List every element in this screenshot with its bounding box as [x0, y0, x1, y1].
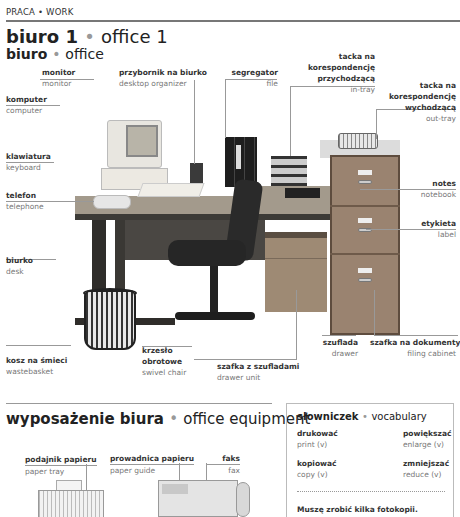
- label-en: wastebasket: [6, 366, 67, 377]
- label-pl: szuflada: [318, 337, 358, 348]
- label-pl: tacka na: [370, 80, 456, 91]
- label-file: segregator file: [230, 67, 278, 89]
- label-pl: przybornik na biurko: [119, 67, 207, 78]
- leader-line: [296, 290, 297, 359]
- label-en: fax: [206, 465, 240, 476]
- label-en: desk: [6, 266, 33, 277]
- cabinet-handle-image: [358, 180, 372, 184]
- label-pl: tacka na: [290, 51, 375, 62]
- label-desk: biurko desk: [6, 255, 33, 277]
- leader-line: [225, 80, 226, 138]
- notebook-image: [285, 188, 320, 198]
- drawer-divider: [265, 258, 327, 259]
- label-en: swivel chair: [142, 367, 186, 378]
- cabinet-label-image: [358, 170, 372, 175]
- cabinet-divider: [330, 253, 400, 255]
- equipment-title: wyposażenie biura • office equipment: [6, 410, 310, 428]
- monitor-screen-image: [126, 125, 158, 157]
- label-keyboard: klawiatura keyboard: [6, 151, 51, 173]
- label-en: notebook: [400, 189, 456, 200]
- label-drawer: szuflada drawer: [318, 337, 358, 359]
- equipment-divider: [6, 403, 272, 404]
- vocab-en: copy (v): [297, 469, 336, 480]
- label-pl: kosz na śmieci: [6, 355, 67, 366]
- label-organizer: przybornik na biurko desktop organizer: [119, 67, 207, 89]
- label-pl: przychodzącą: [290, 73, 375, 84]
- label-en: out-tray: [370, 113, 456, 124]
- label-en: computer: [6, 105, 47, 116]
- label-en: keyboard: [6, 162, 51, 173]
- label-en: monitor: [42, 78, 75, 89]
- label-en: drawer: [318, 348, 358, 359]
- vocab-pl: zmniejszać: [403, 458, 449, 469]
- intray-image: [271, 156, 307, 186]
- telephone-image: [93, 195, 131, 209]
- label-paper-guide: prowadnica papieru paper guide: [110, 453, 194, 476]
- vocabulary-title-pl: słowniczek: [297, 411, 359, 422]
- leader-line: [290, 86, 291, 156]
- cabinet-label-image: [358, 218, 372, 223]
- vocabulary-title: słowniczek • vocabulary: [297, 411, 427, 422]
- vocabulary-title-separator: •: [362, 411, 368, 422]
- label-pl: biurko: [6, 255, 33, 266]
- vocab-item: zmniejszać reduce (v): [403, 458, 449, 480]
- vocab-pl: drukować: [297, 428, 338, 439]
- leader-line: [194, 80, 195, 164]
- label-pl: szafka z szufladami: [217, 361, 299, 372]
- label-en: file: [230, 78, 278, 89]
- label-en: in-tray: [290, 84, 375, 95]
- label-pl: korespondencję: [290, 62, 375, 73]
- cabinet-label-image: [358, 268, 372, 273]
- vocab-item: drukować print (v): [297, 428, 338, 450]
- label-pl: notes: [400, 178, 456, 189]
- label-en: drawer unit: [217, 372, 299, 383]
- label-en: label: [400, 229, 456, 240]
- keyboard-image: [137, 183, 204, 197]
- label-notebook: notes notebook: [400, 178, 456, 200]
- label-drawer-unit: szafka z szufladami drawer unit: [217, 361, 299, 383]
- chair-seat-image: [168, 240, 246, 266]
- leader-line: [194, 359, 297, 360]
- cabinet-handle-image: [358, 278, 372, 282]
- label-swivel-chair: krzesło obrotowe swivel chair: [142, 345, 186, 378]
- label-pl: korespondencję: [370, 91, 456, 102]
- vocab-en: reduce (v): [403, 469, 449, 480]
- label-pl: obrotowe: [142, 356, 186, 367]
- file-spine-label: [236, 145, 241, 169]
- label-en: paper guide: [110, 465, 194, 476]
- label-pl: monitor: [42, 67, 75, 78]
- label-outtray: tacka na korespondencję wychodzącą out-t…: [370, 80, 456, 124]
- label-pl: wychodzącą: [370, 102, 456, 113]
- vocab-pl: kopiować: [297, 458, 336, 469]
- leader-line: [322, 335, 356, 336]
- printer-image: [38, 490, 104, 517]
- label-pl: klawiatura: [6, 151, 51, 162]
- vocab-pl: powiększać: [403, 428, 451, 439]
- vocab-item: powiększać enlarge (v): [403, 428, 451, 450]
- label-fax: faks fax: [206, 453, 240, 476]
- label-pl: etykieta: [400, 218, 456, 229]
- label-en: telephone: [6, 201, 44, 212]
- label-telephone: telefon telephone: [6, 190, 44, 212]
- label-pl: szafka na dokumenty: [370, 337, 456, 348]
- wastebasket-image: [84, 290, 136, 350]
- outtray-image: [338, 133, 378, 149]
- label-pl: prowadnica papieru: [110, 453, 194, 465]
- label-filing-cabinet: szafka na dokumenty filing cabinet: [370, 337, 456, 359]
- label-en: filing cabinet: [370, 348, 456, 359]
- cabinet-divider: [330, 205, 400, 207]
- vocab-en: print (v): [297, 439, 338, 450]
- vocab-en: enlarge (v): [403, 439, 451, 450]
- label-pl: segregator: [230, 67, 278, 78]
- organizer-image: [190, 163, 203, 185]
- leader-line: [374, 335, 458, 336]
- leader-line: [374, 290, 375, 335]
- label-computer: komputer computer: [6, 94, 47, 116]
- example-sentence: Muszę zrobić kilka fotokopii.: [297, 505, 418, 514]
- chair-post-image: [210, 266, 218, 316]
- label-pl: komputer: [6, 94, 47, 105]
- equipment-title-pl: wyposażenie biura: [6, 410, 164, 428]
- chair-base-image: [175, 312, 255, 320]
- label-pl: krzesło: [142, 345, 186, 356]
- fax-handset-image: [236, 482, 250, 517]
